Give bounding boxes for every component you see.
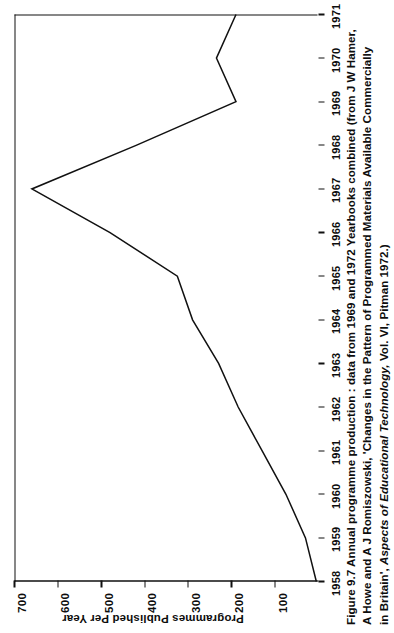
year-label-1964: 1964 <box>330 309 342 334</box>
value-label-100: 100 <box>277 593 289 613</box>
value-tick-500 <box>100 580 101 587</box>
value-tick-400 <box>144 580 145 587</box>
figure-9-7: 1958195919601961196219631964196519661967… <box>0 0 394 633</box>
caption-line-2: A Howe and A J Romiszowski, 'Changes in … <box>359 25 375 625</box>
year-label-1970: 1970 <box>330 47 342 72</box>
value-axis-title: Programmes Published Per Year <box>62 613 244 625</box>
year-label-1960: 1960 <box>330 483 342 508</box>
year-tick-1970 <box>318 57 324 58</box>
year-tick-1969 <box>318 101 324 102</box>
caption-line-3-post: Vol. VI, Pitman 1972.) <box>377 244 390 364</box>
year-tick-1958 <box>318 580 324 581</box>
year-label-1971: 1971 <box>330 4 342 29</box>
value-tick-600 <box>57 580 58 587</box>
value-label-200: 200 <box>233 593 245 613</box>
plot-frame <box>14 14 317 581</box>
value-label-500: 500 <box>103 593 115 613</box>
year-tick-1967 <box>318 188 324 189</box>
value-tick-700 <box>13 580 14 587</box>
value-label-700: 700 <box>16 593 28 613</box>
year-label-1963: 1963 <box>330 353 342 378</box>
year-label-1968: 1968 <box>330 135 342 160</box>
value-tick-300 <box>187 580 188 587</box>
value-tick-200 <box>230 580 231 587</box>
value-label-400: 400 <box>146 593 158 613</box>
year-tick-1968 <box>318 144 324 145</box>
year-tick-1959 <box>318 537 324 538</box>
year-label-1969: 1969 <box>330 91 342 116</box>
caption-line-3-pre: in Britain', <box>377 565 390 625</box>
year-label-1958: 1958 <box>330 571 342 596</box>
year-label-1962: 1962 <box>330 396 342 421</box>
year-tick-1963 <box>318 362 324 363</box>
year-tick-1962 <box>318 406 324 407</box>
value-label-300: 300 <box>190 593 202 613</box>
year-tick-1971 <box>318 13 324 14</box>
figure-caption: Figure 9.7 Annual programme production :… <box>343 25 392 625</box>
year-label-1967: 1967 <box>330 178 342 203</box>
year-label-1966: 1966 <box>330 222 342 247</box>
value-tick-100 <box>274 580 275 587</box>
year-tick-1965 <box>318 275 324 276</box>
caption-line-1: Figure 9.7 Annual programme production :… <box>343 25 359 625</box>
year-label-1959: 1959 <box>330 527 342 552</box>
year-label-1961: 1961 <box>330 440 342 465</box>
value-axis-line <box>14 580 318 581</box>
value-label-600: 600 <box>59 593 71 613</box>
year-tick-1966 <box>318 231 324 232</box>
year-tick-1960 <box>318 493 324 494</box>
year-tick-1964 <box>318 319 324 320</box>
year-label-1965: 1965 <box>330 265 342 290</box>
year-tick-1961 <box>318 450 324 451</box>
caption-journal-title: Aspects of Educational Technology, <box>377 364 390 565</box>
caption-line-3: in Britain', Aspects of Educational Tech… <box>376 25 392 625</box>
